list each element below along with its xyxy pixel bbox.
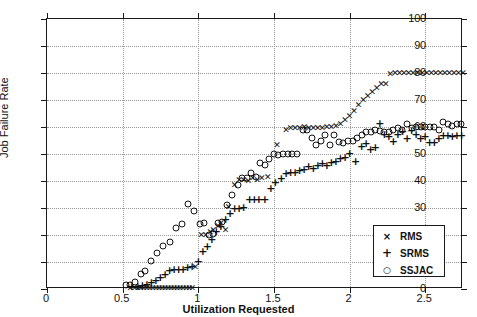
tick-x-top xyxy=(47,13,48,19)
y-axis-title: Job Failure Rate xyxy=(0,77,10,158)
gridline-horizontal xyxy=(47,208,461,209)
tick-y-right xyxy=(461,154,467,155)
gridline-horizontal xyxy=(47,46,461,47)
tick-y xyxy=(41,73,47,74)
tick-x-top xyxy=(350,13,351,19)
y-tick-label: 60 xyxy=(414,120,426,132)
x-tick-label: 0 xyxy=(43,292,49,304)
data-point-srms: + xyxy=(371,142,380,153)
tick-y xyxy=(41,235,47,236)
data-point-ssjac xyxy=(166,238,173,245)
data-point-ssjac xyxy=(435,126,442,133)
x-axis-title: Utilization Requested xyxy=(0,303,477,315)
legend-label: SRMS xyxy=(400,247,429,258)
x-tick-label: 0.5 xyxy=(114,292,129,304)
tick-x-top xyxy=(123,13,124,19)
gridline-horizontal xyxy=(47,154,461,155)
data-point-srms: + xyxy=(457,130,466,141)
tick-y xyxy=(41,262,47,263)
tick-y-right xyxy=(461,235,467,236)
tick-x-top xyxy=(274,13,275,19)
data-point-ssjac xyxy=(131,279,138,286)
figure: Job Failure Rate Utilization Requested ✕… xyxy=(0,0,477,317)
y-tick-label: 30 xyxy=(414,201,426,213)
tick-y-right xyxy=(461,19,467,20)
data-point-srms: + xyxy=(351,155,360,166)
data-point-ssjac xyxy=(293,151,300,158)
data-point-ssjac xyxy=(326,141,333,148)
tick-y-right xyxy=(461,46,467,47)
tick-y xyxy=(41,46,47,47)
y-tick-label: 70 xyxy=(414,93,426,105)
data-point-ssjac xyxy=(219,218,226,225)
y-tick-label: 80 xyxy=(414,66,426,78)
tick-y xyxy=(41,127,47,128)
data-point-rms: ✕ xyxy=(459,69,467,78)
tick-y-right xyxy=(461,181,467,182)
data-point-ssjac xyxy=(234,182,241,189)
legend-label: SSJAC xyxy=(400,264,433,275)
x-tick-label: 2.5 xyxy=(417,292,432,304)
tick-y-right xyxy=(461,262,467,263)
legend-item-ssjac[interactable]: ○SSJAC xyxy=(374,261,446,278)
data-point-ssjac xyxy=(142,268,149,275)
data-point-srms: + xyxy=(260,193,269,204)
tick-y xyxy=(41,181,47,182)
tick-y-right xyxy=(461,208,467,209)
legend[interactable]: ×RMS+SRMS○SSJAC xyxy=(373,225,445,277)
y-tick-label: 40 xyxy=(414,174,426,186)
data-point-ssjac xyxy=(322,132,329,139)
data-point-ssjac xyxy=(458,121,465,128)
data-point-ssjac xyxy=(304,126,311,133)
data-point-ssjac xyxy=(190,207,197,214)
legend-marker-srms-icon: + xyxy=(380,246,394,260)
data-point-ssjac xyxy=(178,221,185,228)
legend-marker-ssjac-icon: ○ xyxy=(380,265,394,275)
data-point-ssjac xyxy=(252,173,259,180)
data-point-ssjac xyxy=(148,257,155,264)
data-point-rms: ✕ xyxy=(382,79,390,88)
data-point-ssjac xyxy=(228,191,235,198)
x-tick-label: 1 xyxy=(194,292,200,304)
tick-y-right xyxy=(461,289,467,290)
x-tick-label: 1.5 xyxy=(265,292,280,304)
tick-y-right xyxy=(461,100,467,101)
tick-y xyxy=(41,19,47,20)
data-point-ssjac xyxy=(201,219,208,226)
legend-label: RMS xyxy=(400,230,422,241)
y-tick-label: 50 xyxy=(414,147,426,159)
tick-y xyxy=(41,154,47,155)
tick-x-top xyxy=(198,13,199,19)
tick-y xyxy=(41,100,47,101)
gridline-horizontal xyxy=(47,100,461,101)
tick-y xyxy=(41,208,47,209)
x-tick-label: 2 xyxy=(345,292,351,304)
gridline-vertical xyxy=(123,19,124,287)
legend-item-rms[interactable]: ×RMS xyxy=(374,227,446,244)
data-point-rms: ✕ xyxy=(273,140,281,149)
legend-marker-rms-icon: × xyxy=(380,230,394,241)
data-point-ssjac xyxy=(154,249,161,256)
data-point-ssjac xyxy=(224,202,231,209)
y-tick-label: 100 xyxy=(408,12,426,24)
legend-item-srms[interactable]: +SRMS xyxy=(374,244,446,261)
data-point-ssjac xyxy=(210,230,217,237)
y-tick-label: 90 xyxy=(414,39,426,51)
